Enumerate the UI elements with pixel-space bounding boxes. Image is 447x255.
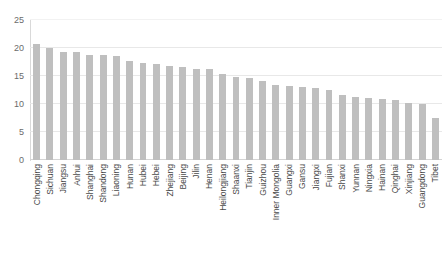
- bar[interactable]: [140, 63, 147, 160]
- x-axis-tick-label: Yunnan: [351, 164, 360, 193]
- x-label-slot: Jiangsu: [57, 162, 70, 254]
- bar[interactable]: [100, 55, 107, 160]
- bar[interactable]: [365, 98, 372, 160]
- x-label-slot: Fujian: [322, 162, 335, 254]
- bar[interactable]: [33, 44, 40, 160]
- bar-slot: [140, 20, 147, 160]
- x-label-slot: Qinghai: [389, 162, 402, 254]
- x-label-slot: Xinjiang: [402, 162, 415, 254]
- x-label-slot: Jilin: [189, 162, 202, 254]
- bar[interactable]: [392, 100, 399, 160]
- x-label-slot: Hainan: [376, 162, 389, 254]
- x-axis-tick-label: Hainan: [378, 164, 387, 191]
- x-axis-tick-label: Shanghai: [86, 164, 95, 200]
- bar[interactable]: [126, 61, 133, 160]
- bar-slot: [405, 20, 412, 160]
- bar[interactable]: [206, 69, 213, 160]
- x-axis-tick-label: Beijing: [179, 164, 188, 190]
- bar[interactable]: [179, 67, 186, 160]
- bar[interactable]: [352, 97, 359, 160]
- y-tick-label: 0: [19, 155, 30, 164]
- bar[interactable]: [46, 48, 53, 160]
- x-label-slot: Zhejiang: [163, 162, 176, 254]
- x-axis-tick-label: Hunan: [125, 164, 134, 189]
- bar-slot: [233, 20, 240, 160]
- bar-slot: [392, 20, 399, 160]
- bar[interactable]: [326, 90, 333, 160]
- x-label-slot: Guizhou: [256, 162, 269, 254]
- x-axis-tick-label: Guangdong: [418, 164, 427, 208]
- x-axis-tick-label: Liaoning: [112, 164, 121, 196]
- bar-slot: [326, 20, 333, 160]
- x-axis-tick-label: Zhejiang: [165, 164, 174, 197]
- bar-slot: [86, 20, 93, 160]
- bar[interactable]: [113, 56, 120, 160]
- bar-slot: [419, 20, 426, 160]
- bar-slot: [179, 20, 186, 160]
- bar-slot: [153, 20, 160, 160]
- x-axis-tick-label: Qinghai: [391, 164, 400, 193]
- x-label-slot: Jiangxi: [309, 162, 322, 254]
- bar-slot: [219, 20, 226, 160]
- bar[interactable]: [312, 88, 319, 160]
- bar-slot: [166, 20, 173, 160]
- y-tick-label: 5: [19, 127, 30, 136]
- bar-slot: [33, 20, 40, 160]
- bar-chart: 0510152025 ChongqingSichuanJiangsuAnhuiS…: [0, 0, 447, 255]
- x-axis-tick-label: Guizhou: [258, 164, 267, 196]
- x-axis-tick-label: Sichuan: [46, 164, 55, 195]
- x-label-slot: Guangxi: [283, 162, 296, 254]
- bar[interactable]: [193, 69, 200, 160]
- x-label-slot: Gansu: [296, 162, 309, 254]
- x-label-slot: Henan: [203, 162, 216, 254]
- bar-slot: [286, 20, 293, 160]
- bar[interactable]: [419, 104, 426, 160]
- bar[interactable]: [286, 86, 293, 160]
- bar-slot: [365, 20, 372, 160]
- bar[interactable]: [86, 55, 93, 160]
- bar-slot: [113, 20, 120, 160]
- bar-slot: [352, 20, 359, 160]
- bar[interactable]: [233, 77, 240, 160]
- bar[interactable]: [60, 52, 67, 160]
- bar-slot: [73, 20, 80, 160]
- x-axis-tick-label: Henan: [205, 164, 214, 189]
- x-axis-tick-label: Anhui: [72, 164, 81, 186]
- x-label-slot: Yunnan: [349, 162, 362, 254]
- x-axis-tick-label: Shaanxi: [232, 164, 241, 195]
- bar[interactable]: [246, 78, 253, 160]
- bar[interactable]: [166, 66, 173, 160]
- x-label-slot: Hebei: [150, 162, 163, 254]
- x-axis-tick-label: Tianjin: [245, 164, 254, 189]
- x-axis-tick-label: Jiangsu: [59, 164, 68, 193]
- x-label-slot: Heilongjiang: [216, 162, 229, 254]
- bar[interactable]: [259, 81, 266, 160]
- bar[interactable]: [379, 99, 386, 160]
- bar[interactable]: [153, 64, 160, 160]
- bar[interactable]: [73, 52, 80, 160]
- x-axis-tick-label: Xinjiang: [405, 164, 414, 194]
- x-label-slot: Hunan: [123, 162, 136, 254]
- bar-slot: [312, 20, 319, 160]
- x-axis-tick-label: Tibet: [431, 164, 440, 183]
- bar-slot: [100, 20, 107, 160]
- x-label-slot: Inner Mongolia: [269, 162, 282, 254]
- bar-slot: [46, 20, 53, 160]
- x-axis-tick-label: Hubei: [139, 164, 148, 186]
- bar-slot: [246, 20, 253, 160]
- bar-slot: [193, 20, 200, 160]
- x-label-slot: Guangdong: [415, 162, 428, 254]
- x-label-slot: Anhui: [70, 162, 83, 254]
- x-axis-tick-label: Jiangxi: [311, 164, 320, 190]
- bar[interactable]: [219, 74, 226, 160]
- x-label-slot: Liaoning: [110, 162, 123, 254]
- bar[interactable]: [339, 95, 346, 160]
- x-axis-tick-label: Gansu: [298, 164, 307, 189]
- x-axis-tick-label: Guangxi: [285, 164, 294, 196]
- bar-slot: [272, 20, 279, 160]
- bar[interactable]: [405, 103, 412, 160]
- bar[interactable]: [432, 118, 439, 160]
- bar-slot: [206, 20, 213, 160]
- bar[interactable]: [272, 85, 279, 160]
- bar[interactable]: [299, 87, 306, 160]
